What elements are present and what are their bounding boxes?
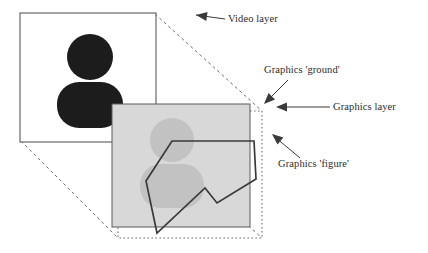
annotation-graphics-figure: Graphics 'figure' [272, 134, 349, 169]
label-graphics-layer: Graphics layer [333, 101, 396, 112]
annotation-graphics-layer: Graphics layer [276, 101, 396, 112]
diagram-figure: Video layer Graphics 'ground' Graphics l… [0, 0, 428, 253]
graphics-silhouette-head-icon [150, 118, 194, 162]
annotation-video-layer: Video layer [196, 12, 278, 24]
perspective-line-bottom-left [21, 141, 118, 238]
label-graphics-ground: Graphics 'ground' [264, 64, 340, 75]
video-silhouette-head-icon [67, 34, 113, 80]
diagram-canvas: Video layer Graphics 'ground' Graphics l… [0, 0, 428, 253]
annotation-graphics-ground: Graphics 'ground' [264, 64, 340, 104]
graphics-layer-group [112, 104, 250, 227]
arrowhead-video-layer [196, 12, 208, 21]
arrowhead-graphics-layer [276, 102, 287, 111]
perspective-line-top-right [155, 14, 262, 111]
label-graphics-figure: Graphics 'figure' [278, 158, 349, 169]
label-video-layer: Video layer [228, 13, 278, 24]
